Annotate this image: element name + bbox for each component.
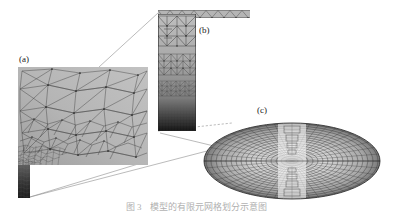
panel-a-triangulation: [18, 67, 148, 165]
panel-a-tail-mesh: [18, 165, 30, 198]
figure-caption: 图 3 模型的有限元网格划分示意图: [0, 202, 393, 212]
panel-a-label: (a): [19, 55, 29, 64]
panel-c-label: (c): [257, 106, 267, 115]
panel-c-disc-block: [202, 118, 382, 203]
panel-a-refined-tail: [18, 165, 30, 198]
panel-b-triangulation: [158, 14, 196, 131]
leader-line-a-to-b: [99, 13, 158, 67]
leader-line-a-bottom: [30, 161, 148, 197]
panel-b-mesh-column: [158, 14, 196, 131]
figure-root: (a): [0, 0, 393, 212]
panel-b-label: (b): [199, 26, 210, 35]
panel-a-mesh-block: [18, 67, 148, 165]
panel-c-radial-mesh: [202, 118, 382, 203]
